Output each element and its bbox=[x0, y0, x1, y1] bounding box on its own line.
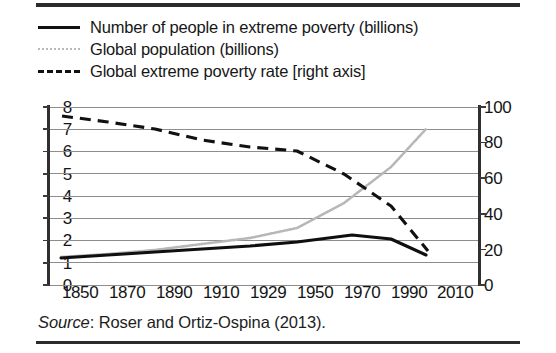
dashed-line-icon bbox=[36, 64, 82, 78]
x-axis-tick-1990: 1990 bbox=[391, 283, 427, 303]
figure-bottom-rule bbox=[36, 341, 520, 344]
legend-label: Number of people in extreme poverty (bil… bbox=[90, 18, 418, 37]
x-axis-tick-1850: 1850 bbox=[62, 283, 98, 303]
chart-canvas bbox=[0, 96, 556, 296]
gridlines bbox=[48, 107, 480, 285]
plot-area: 8 7 6 5 4 3 2 1 0 100 80 60 40 20 0 bbox=[0, 96, 556, 296]
legend-item-poverty-rate: Global extreme poverty rate [right axis] bbox=[36, 60, 506, 82]
solid-line-icon bbox=[36, 20, 82, 34]
x-axis-tick-1970: 1970 bbox=[344, 283, 380, 303]
x-axis-labels: 1850 1870 1890 1910 1929 1950 1970 1990 … bbox=[0, 283, 556, 307]
x-axis-tick-1890: 1890 bbox=[156, 283, 192, 303]
legend-item-global-population: Global population (billions) bbox=[36, 38, 506, 60]
legend-label: Global population (billions) bbox=[90, 40, 279, 59]
source-label: Source bbox=[38, 313, 90, 331]
x-axis-tick-2010: 2010 bbox=[437, 283, 473, 303]
figure-container: Number of people in extreme poverty (bil… bbox=[0, 0, 556, 353]
source-citation: : Roser and Ortiz-Ospina (2013). bbox=[90, 313, 326, 331]
figure-top-rule bbox=[36, 3, 520, 7]
dotted-line-icon bbox=[36, 42, 82, 56]
legend-item-poverty-count: Number of people in extreme poverty (bil… bbox=[36, 16, 506, 38]
chart-legend: Number of people in extreme poverty (bil… bbox=[36, 16, 506, 82]
series-line-extreme-poverty-rate bbox=[62, 116, 428, 251]
x-axis-tick-1870: 1870 bbox=[109, 283, 145, 303]
legend-label: Global extreme poverty rate [right axis] bbox=[90, 62, 365, 81]
x-axis-tick-1950: 1950 bbox=[297, 283, 333, 303]
figure-source-note: Source: Roser and Ortiz-Ospina (2013). bbox=[38, 312, 326, 332]
x-axis-tick-1929: 1929 bbox=[250, 283, 286, 303]
x-axis-tick-1910: 1910 bbox=[203, 283, 239, 303]
